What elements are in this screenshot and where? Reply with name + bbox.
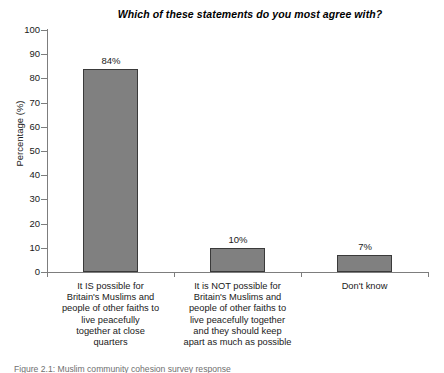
x-axis-category-label: Don't know — [295, 281, 434, 292]
y-axis-tick-label: 80 — [4, 72, 40, 83]
y-axis-tick-label: 60 — [4, 121, 40, 132]
y-axis-tick-label: 100 — [4, 24, 40, 35]
category-label-line: live peacefully — [41, 315, 180, 326]
y-axis-tick — [41, 151, 47, 152]
category-label-line: Britain's Muslims and — [168, 292, 307, 303]
y-axis-tick — [41, 224, 47, 225]
category-label-line: and they should keep — [168, 326, 307, 337]
category-label-line: Don't know — [295, 281, 434, 292]
category-label-line: apart as much as possible — [168, 337, 307, 348]
category-label-line: live peacefully together — [168, 315, 307, 326]
y-axis-tick-label: 40 — [4, 169, 40, 180]
x-axis-tick — [47, 272, 48, 277]
x-axis-tick — [174, 272, 175, 277]
y-axis-tick-label: 90 — [4, 48, 40, 59]
bar-value-label: 10% — [208, 234, 268, 245]
x-axis-tick — [428, 272, 429, 277]
y-axis-tick — [41, 30, 47, 31]
y-axis-tick — [41, 103, 47, 104]
y-axis-tick — [41, 127, 47, 128]
bar — [83, 69, 138, 272]
x-axis-category-label: It is NOT possible forBritain's Muslims … — [168, 281, 307, 348]
category-label-line: together at close — [41, 326, 180, 337]
y-axis-tick — [41, 78, 47, 79]
bar-value-label: 84% — [81, 55, 141, 66]
bar — [210, 248, 265, 272]
x-axis-category-label: It IS possible forBritain's Muslims andp… — [41, 281, 180, 348]
category-label-line: quarters — [41, 337, 180, 348]
bar-value-label: 7% — [335, 241, 395, 252]
y-axis-tick-label: 70 — [4, 97, 40, 108]
category-label-line: people of other faiths to — [168, 303, 307, 314]
y-axis-tick — [41, 175, 47, 176]
y-axis-tick-label: 20 — [4, 218, 40, 229]
figure-caption: Figure 2.1: Muslim community cohesion su… — [14, 364, 434, 373]
y-axis-tick-label: 10 — [4, 242, 40, 253]
x-axis-tick — [301, 272, 302, 277]
category-label-line: It IS possible for — [41, 281, 180, 292]
y-axis-tick-label: 0 — [4, 266, 40, 277]
y-axis-tick-label: 50 — [4, 145, 40, 156]
category-label-line: It is NOT possible for — [168, 281, 307, 292]
chart-title: Which of these statements do you most ag… — [60, 8, 440, 20]
y-axis-tick — [41, 54, 47, 55]
y-axis-tick — [41, 199, 47, 200]
category-label-line: Britain's Muslims and — [41, 292, 180, 303]
x-axis-line — [47, 272, 429, 273]
category-label-line: people of other faiths to — [41, 303, 180, 314]
y-axis-tick — [41, 248, 47, 249]
figure-container: Which of these statements do you most ag… — [0, 0, 444, 373]
y-axis-line — [47, 29, 48, 273]
bar — [337, 255, 392, 272]
y-axis-tick-label: 30 — [4, 193, 40, 204]
